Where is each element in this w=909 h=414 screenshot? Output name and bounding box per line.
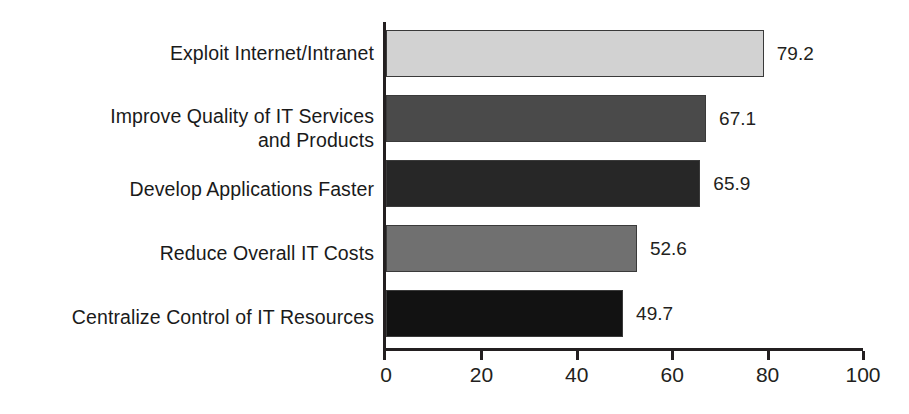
bar-value-label: 67.1 <box>719 108 756 130</box>
bar <box>386 290 623 337</box>
bar-value-label: 49.7 <box>636 303 673 325</box>
x-axis-tick <box>480 351 483 360</box>
x-axis-tick <box>767 351 770 360</box>
category-label: Develop Applications Faster <box>0 177 374 201</box>
bar <box>386 95 706 142</box>
bar <box>386 160 700 207</box>
bar <box>386 30 764 77</box>
bar <box>386 225 637 272</box>
plot-area: 0 20 40 60 80 100 79.2 67.1 65.9 52.6 49… <box>386 30 863 348</box>
bar-chart: Exploit Internet/Intranet Improve Qualit… <box>0 0 909 414</box>
category-axis-labels: Exploit Internet/Intranet Improve Qualit… <box>0 0 374 414</box>
category-label: Reduce Overall IT Costs <box>0 241 374 265</box>
bar-value-label: 52.6 <box>650 238 687 260</box>
x-axis-tick-label: 60 <box>661 362 684 388</box>
x-axis-tick-label: 80 <box>756 362 779 388</box>
x-axis-tick-label: 20 <box>470 362 493 388</box>
x-axis-tick <box>862 351 865 360</box>
category-label: Exploit Internet/Intranet <box>0 41 374 65</box>
x-axis-tick <box>383 351 386 360</box>
x-axis-tick-label: 100 <box>845 362 880 388</box>
x-axis-tick <box>671 351 674 360</box>
x-axis-tick-label: 0 <box>380 362 392 388</box>
x-axis-tick <box>576 351 579 360</box>
bar-value-label: 79.2 <box>777 43 814 65</box>
category-label: Centralize Control of IT Resources <box>0 305 374 329</box>
category-label: Improve Quality of IT Services and Produ… <box>0 104 374 152</box>
bar-value-label: 65.9 <box>713 173 750 195</box>
x-axis-tick-label: 40 <box>565 362 588 388</box>
x-axis-line <box>383 348 863 351</box>
